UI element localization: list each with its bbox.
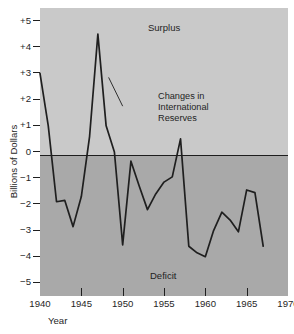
callout-line-3: Reserves bbox=[158, 113, 209, 124]
callout-line-1: Changes in bbox=[158, 91, 209, 102]
y-tick-mark bbox=[33, 256, 40, 257]
y-tick-mark bbox=[33, 46, 40, 47]
x-tick-label: 1945 bbox=[71, 298, 92, 309]
y-tick-label: −1 bbox=[20, 172, 31, 184]
deficit-zone-label: Deficit bbox=[150, 270, 176, 281]
y-tick-label: −3 bbox=[20, 224, 31, 236]
y-tick-label: +3 bbox=[20, 67, 31, 79]
x-axis-title: Year bbox=[48, 315, 67, 326]
y-tick-mark bbox=[33, 230, 40, 231]
y-tick-mark bbox=[33, 99, 40, 100]
callout-line-2: International bbox=[158, 102, 209, 113]
y-tick-label: +4 bbox=[20, 41, 31, 53]
international-reserves-line bbox=[40, 34, 263, 257]
y-tick-mark bbox=[33, 72, 40, 73]
y-tick-label: +5 bbox=[20, 15, 31, 27]
y-axis: Billions of Dollars +5+4+3+2+10−1−2−3−4−… bbox=[0, 8, 40, 296]
x-tick-mark bbox=[81, 288, 82, 296]
x-tick-mark bbox=[123, 288, 124, 296]
y-tick-mark bbox=[33, 177, 40, 178]
series-callout-label: Changes in International Reserves bbox=[158, 91, 209, 123]
y-tick-label: −2 bbox=[20, 198, 31, 210]
y-tick-label: 0 bbox=[26, 146, 31, 158]
callout-leader-line bbox=[109, 77, 123, 106]
y-tick-mark bbox=[33, 20, 40, 21]
x-tick-label: 1970 bbox=[277, 298, 294, 309]
y-tick-mark bbox=[33, 282, 40, 283]
x-tick-label: 1940 bbox=[29, 298, 50, 309]
y-axis-title: Billions of Dollars bbox=[8, 97, 19, 227]
y-tick-mark bbox=[33, 151, 40, 152]
chart-figure: Surplus Deficit Changes in International… bbox=[0, 0, 294, 334]
x-tick-label: 1950 bbox=[112, 298, 133, 309]
x-tick-mark bbox=[247, 288, 248, 296]
x-axis: Year 1940194519501955196019651970 bbox=[40, 296, 288, 334]
x-tick-label: 1965 bbox=[236, 298, 257, 309]
data-series-svg bbox=[40, 8, 288, 296]
x-tick-mark bbox=[205, 288, 206, 296]
x-tick-label: 1960 bbox=[195, 298, 216, 309]
y-tick-label: −4 bbox=[20, 250, 31, 262]
surplus-zone-label: Surplus bbox=[148, 22, 180, 33]
y-tick-mark bbox=[33, 125, 40, 126]
y-tick-label: +2 bbox=[20, 93, 31, 105]
y-tick-mark bbox=[33, 203, 40, 204]
y-tick-label: −5 bbox=[20, 276, 31, 288]
y-tick-label: +1 bbox=[20, 119, 31, 131]
x-tick-mark bbox=[164, 288, 165, 296]
x-tick-label: 1955 bbox=[153, 298, 174, 309]
plot-area: Surplus Deficit Changes in International… bbox=[40, 8, 288, 296]
